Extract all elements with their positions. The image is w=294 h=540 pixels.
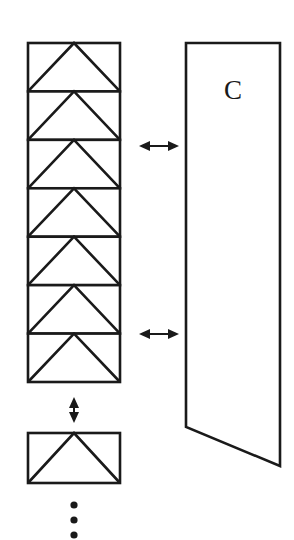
ellipsis-dot-1 <box>70 501 77 508</box>
horizontal-arrow-lower <box>139 329 179 339</box>
horizontal-arrow-upper-head-right <box>168 141 179 151</box>
vertical-arrow-gap <box>69 397 79 423</box>
figure-drawing: C <box>0 0 294 540</box>
stack-cell-4-rect <box>28 188 120 236</box>
horizontal-arrow-upper-head-left <box>139 141 150 151</box>
stack-cell-6 <box>28 285 120 333</box>
stack-cell-6-rect <box>28 285 120 333</box>
stack-cell-3 <box>28 140 120 188</box>
quadrilateral-C-shape <box>186 43 280 466</box>
vertical-arrow-gap-head-bottom <box>69 412 79 423</box>
horizontal-arrow-lower-head-left <box>139 329 150 339</box>
vertical-ellipsis <box>70 501 77 538</box>
detached-cell-group <box>28 433 120 483</box>
quadrilateral-C-label: C <box>224 75 242 105</box>
left-stack-group <box>28 43 120 382</box>
horizontal-arrow-lower-head-right <box>168 329 179 339</box>
stack-cell-7 <box>28 334 120 382</box>
stack-cell-4 <box>28 188 120 236</box>
stack-cell-1 <box>28 43 120 91</box>
stack-cell-2 <box>28 91 120 139</box>
stack-cell-1-rect <box>28 43 120 91</box>
vertical-arrow-gap-head-top <box>69 397 79 408</box>
ellipsis-dot-3 <box>70 531 77 538</box>
stack-cell-7-rect <box>28 334 120 382</box>
figure-canvas: C <box>0 0 294 540</box>
stack-cell-2-rect <box>28 91 120 139</box>
ellipsis-dot-2 <box>70 516 77 523</box>
stack-cell-3-rect <box>28 140 120 188</box>
stack-cell-5-rect <box>28 237 120 285</box>
stack-cell-5 <box>28 237 120 285</box>
right-quadrilateral-group: C <box>186 43 280 466</box>
detached-cell-rect <box>28 433 120 483</box>
horizontal-arrow-upper <box>139 141 179 151</box>
